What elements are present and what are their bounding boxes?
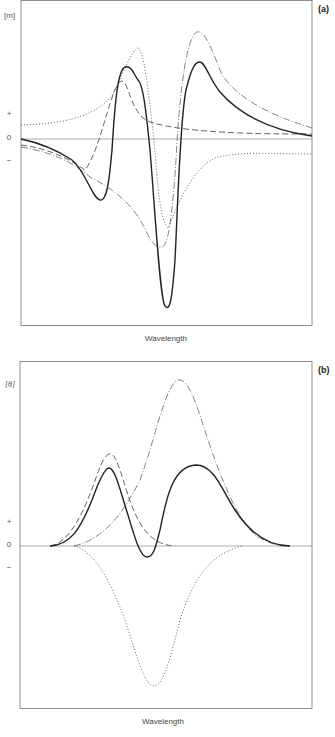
- panel-a-tick-plus: +: [3, 109, 15, 118]
- panel-b-frame: [20, 362, 312, 709]
- panel-b-tick-zero: 0: [3, 540, 15, 549]
- panel-b-tick-plus: +: [3, 517, 15, 526]
- panel-a-tag: (a): [318, 4, 329, 14]
- panel-b-xlabel: Wavelength: [103, 717, 223, 726]
- panel-a-ylabel: [m]: [4, 11, 15, 20]
- panel-a-xlabel: Wavelength: [106, 334, 226, 343]
- panel-b-ylabel: [θ]: [5, 380, 15, 389]
- panel-a-frame: [21, 1, 312, 326]
- panel-a-solid-curve: [21, 62, 312, 307]
- panel-a-dashdot-curve: [21, 32, 312, 247]
- panel-a-dotted-curve: [21, 48, 312, 228]
- panel-b-tick-minus: −: [3, 563, 15, 572]
- panel-a-tick-zero: 0: [3, 133, 15, 142]
- panel-a-plot: [0, 0, 335, 737]
- panel-b-tag: (b): [318, 365, 330, 375]
- panel-b-solid-curve: [50, 465, 290, 557]
- panel-b-dashdot-curve: [74, 380, 290, 546]
- panel-b-dotted-curve: [74, 546, 242, 686]
- panel-b-dashed-curve: [50, 454, 175, 546]
- panel-a-tick-minus: −: [3, 156, 15, 165]
